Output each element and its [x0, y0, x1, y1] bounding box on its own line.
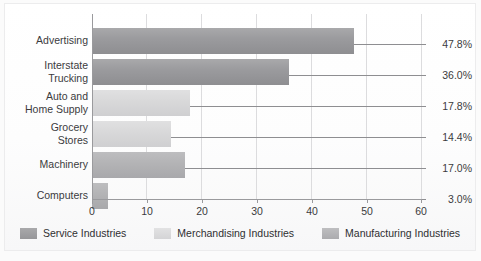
value-label-grocery-stores: 14.4%	[424, 131, 472, 143]
bar-advertising[interactable]	[92, 28, 354, 54]
plot-area	[92, 14, 421, 199]
chart-legend: Service Industries Merchandising Industr…	[4, 222, 476, 244]
x-tick-0	[92, 199, 93, 203]
category-label-interstate-trucking: Interstate Trucking	[8, 59, 88, 84]
x-tick-60	[421, 199, 422, 203]
leader-line-advertising	[354, 44, 421, 45]
category-label-auto-and-home-supply: Auto and Home Supply	[8, 90, 88, 115]
x-tick-10	[147, 199, 148, 203]
legend-swatch-icon-merchandising	[154, 228, 171, 239]
value-label-interstate-trucking: 36.0%	[424, 69, 472, 81]
category-label-advertising: Advertising	[8, 34, 88, 47]
bar-machinery[interactable]	[92, 152, 185, 178]
x-tick-label-40: 40	[297, 205, 327, 217]
category-label-grocery-stores: Grocery Stores	[8, 121, 88, 146]
legend-label-merchandising-industries: Merchandising Industries	[177, 227, 294, 239]
x-tick-label-30: 30	[242, 205, 272, 217]
value-label-auto-and-home-supply: 17.8%	[424, 100, 472, 112]
x-tick-label-10: 10	[132, 205, 162, 217]
legend-item-merchandising-industries[interactable]: Merchandising Industries	[154, 227, 294, 239]
value-label-computers: 3.0%	[424, 193, 472, 205]
bar-grocery-stores[interactable]	[92, 121, 171, 147]
legend-label-manufacturing-industries: Manufacturing Industries	[345, 227, 460, 239]
leader-line-interstate-trucking	[289, 75, 421, 76]
bar-interstate-trucking[interactable]	[92, 59, 289, 85]
value-labels: 47.8% 36.0% 17.8% 14.4% 17.0% 3.0%	[424, 14, 478, 199]
x-tick-label-60: 60	[406, 205, 436, 217]
leader-line-grocery-stores	[171, 137, 421, 138]
category-label-computers: Computers	[8, 189, 88, 202]
x-tick-label-20: 20	[187, 205, 217, 217]
x-tick-50	[367, 199, 368, 203]
y-axis-line	[92, 14, 93, 204]
bar-chart-figure: Advertising Interstate Trucking Auto and…	[0, 0, 481, 261]
legend-swatch-icon-manufacturing	[322, 228, 339, 239]
legend-item-manufacturing-industries[interactable]: Manufacturing Industries	[322, 227, 460, 239]
category-label-machinery: Machinery	[8, 158, 88, 171]
leader-line-machinery	[185, 168, 421, 169]
legend-item-service-industries[interactable]: Service Industries	[20, 227, 126, 239]
x-tick-label-0: 0	[77, 205, 107, 217]
legend-swatch-icon-service	[20, 228, 37, 239]
leader-line-auto-and-home-supply	[190, 106, 421, 107]
bar-auto-and-home-supply[interactable]	[92, 90, 190, 116]
x-tick-20	[202, 199, 203, 203]
x-tick-40	[312, 199, 313, 203]
x-tick-label-50: 50	[352, 205, 382, 217]
value-label-advertising: 47.8%	[424, 38, 472, 50]
legend-label-service-industries: Service Industries	[43, 227, 126, 239]
x-tick-30	[257, 199, 258, 203]
category-axis-labels: Advertising Interstate Trucking Auto and…	[4, 14, 88, 199]
value-label-machinery: 17.0%	[424, 162, 472, 174]
